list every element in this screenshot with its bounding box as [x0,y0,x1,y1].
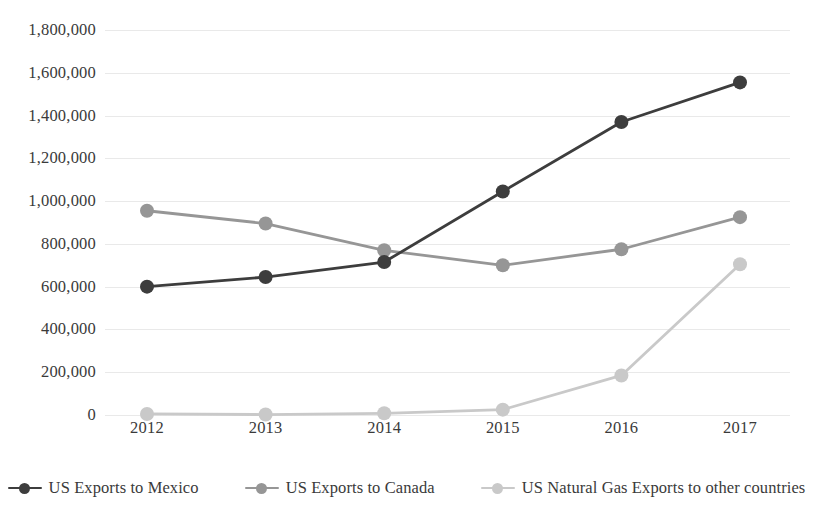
y-tick-label: 400,000 [0,319,96,339]
legend-dot-icon [256,483,267,494]
series-line [147,211,740,266]
x-axis: 201220132014201520162017 [105,418,790,448]
legend-label: US Natural Gas Exports to other countrie… [522,478,806,498]
series-canada [140,204,747,273]
legend-item[interactable]: US Natural Gas Exports to other countrie… [481,478,806,498]
series-natural-gas [140,257,747,421]
data-point-marker [733,210,747,224]
data-point-marker [259,217,273,231]
y-tick-label: 1,200,000 [0,148,96,168]
y-tick-label: 1,400,000 [0,106,96,126]
data-point-marker [614,242,628,256]
data-point-marker [377,255,391,269]
x-tick-label: 2015 [486,418,520,438]
y-tick-label: 200,000 [0,362,96,382]
series-line [147,264,740,414]
y-tick-label: 0 [0,405,96,425]
data-point-marker [614,115,628,129]
chart-legend: US Exports to MexicoUS Exports to Canada… [0,468,813,508]
data-point-marker [496,403,510,417]
legend-marker-icon [245,480,279,496]
y-tick-label: 800,000 [0,234,96,254]
x-tick-label: 2014 [367,418,401,438]
y-tick-label: 600,000 [0,277,96,297]
legend-label: US Exports to Canada [286,478,435,498]
series-mexico [140,75,747,293]
data-point-marker [733,257,747,271]
x-tick-label: 2013 [249,418,283,438]
data-point-marker [140,204,154,218]
legend-marker-icon [481,480,515,496]
data-point-marker [614,368,628,382]
series-layer [105,30,790,415]
legend-item[interactable]: US Exports to Mexico [8,478,199,498]
y-axis: 0200,000400,000600,000800,0001,000,0001,… [0,30,96,415]
data-point-marker [733,75,747,89]
y-tick-label: 1,600,000 [0,63,96,83]
x-tick-label: 2012 [130,418,164,438]
data-point-marker [496,258,510,272]
legend-item[interactable]: US Exports to Canada [245,478,435,498]
line-chart: 0200,000400,000600,000800,0001,000,0001,… [0,0,813,521]
data-point-marker [140,280,154,294]
y-tick-label: 1,000,000 [0,191,96,211]
series-line [147,82,740,286]
legend-dot-icon [19,483,30,494]
x-tick-label: 2017 [723,418,757,438]
legend-marker-icon [8,480,42,496]
data-point-marker [259,270,273,284]
legend-dot-icon [492,483,503,494]
plot-area [105,30,790,415]
x-tick-label: 2016 [604,418,638,438]
data-point-marker [496,184,510,198]
legend-label: US Exports to Mexico [49,478,199,498]
y-tick-label: 1,800,000 [0,20,96,40]
